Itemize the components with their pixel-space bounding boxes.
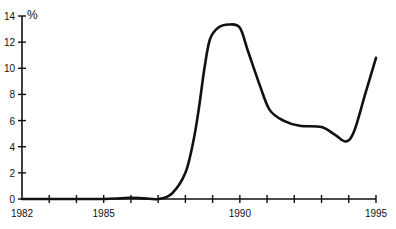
y-tick-label: 12 (4, 37, 16, 48)
chart-canvas: 024681012141982198519901995 % (0, 0, 396, 229)
tick-labels: 024681012141982198519901995 (4, 11, 388, 219)
x-tick-label: 1982 (11, 208, 34, 219)
y-axis-unit-label: % (27, 8, 38, 22)
y-tick-label: 4 (9, 142, 15, 153)
axis-ticks (18, 16, 376, 203)
line-chart: 024681012141982198519901995 % (0, 0, 396, 229)
y-tick-label: 14 (4, 11, 16, 22)
y-tick-label: 8 (9, 89, 15, 100)
y-tick-label: 2 (9, 168, 15, 179)
y-tick-label: 0 (9, 194, 15, 205)
x-tick-label: 1985 (93, 208, 116, 219)
data-line (22, 24, 376, 199)
y-tick-label: 10 (4, 63, 16, 74)
x-tick-label: 1995 (365, 208, 388, 219)
x-tick-label: 1990 (229, 208, 252, 219)
y-tick-label: 6 (9, 116, 15, 127)
